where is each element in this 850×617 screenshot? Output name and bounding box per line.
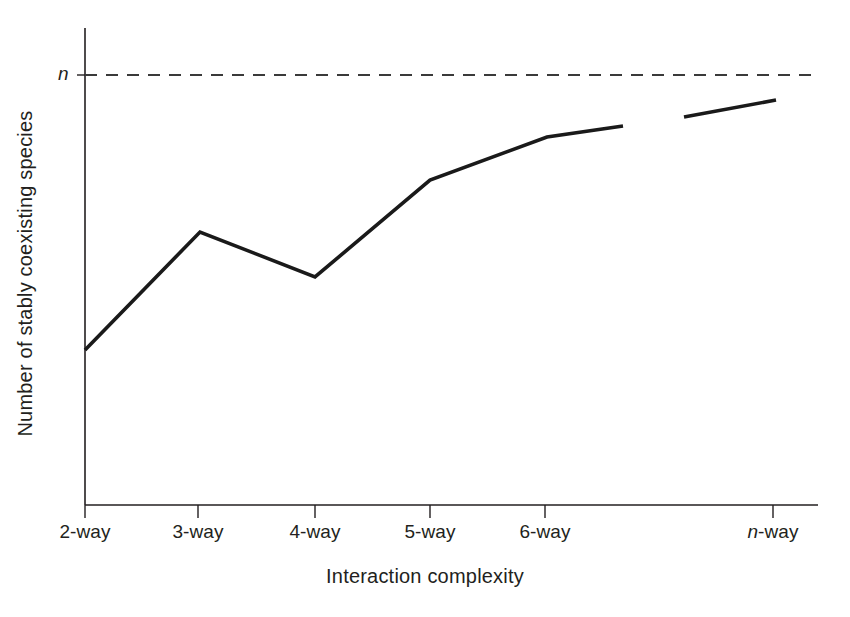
x-axis-title: Interaction complexity (0, 565, 850, 588)
data-line-main-run (85, 126, 623, 350)
data-line-n-way-run (684, 100, 776, 117)
x-axis-tick-label-n-way-suffix: -way (758, 521, 799, 542)
y-axis-title-container: Number of stably coexisting species (0, 0, 50, 617)
x-axis-tick-label-3-way: 3-way (172, 521, 223, 543)
y-axis-tick-label-n: n (58, 63, 69, 85)
chart-figure: n 2-way 3-way 4-way 5-way 6-way n-way In… (0, 0, 850, 617)
x-axis-tick-label-4-way: 4-way (289, 521, 340, 543)
x-axis-tick-label-5-way: 5-way (404, 521, 455, 543)
x-axis-tick-label-n-way: n-way (747, 521, 798, 543)
x-axis-tick-label-2-way: 2-way (59, 521, 110, 543)
y-axis-title: Number of stably coexisting species (14, 99, 37, 449)
x-axis-tick-label-6-way: 6-way (519, 521, 570, 543)
x-axis-tick-label-n-way-italic-n: n (747, 521, 758, 542)
